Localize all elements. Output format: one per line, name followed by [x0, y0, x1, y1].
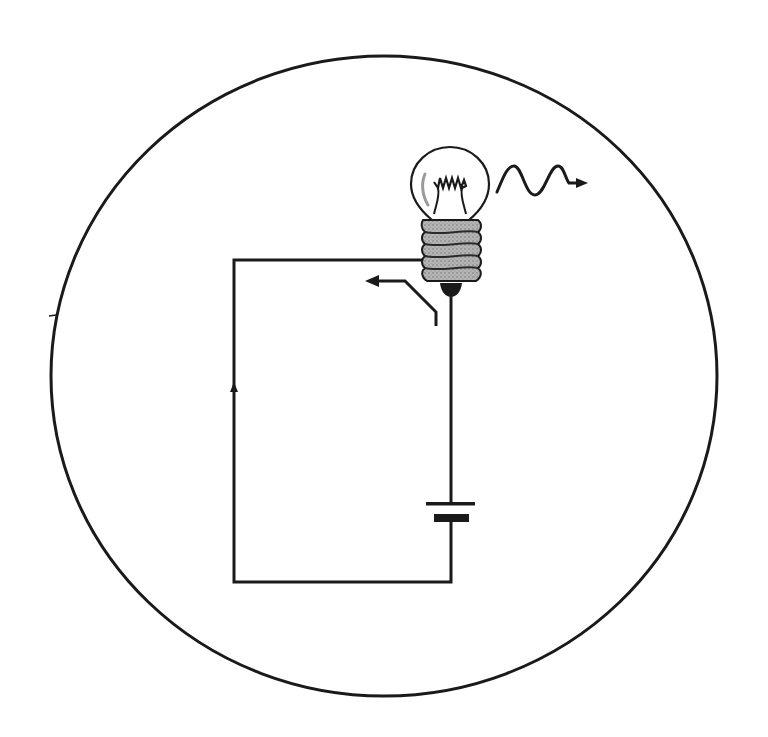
battery-icon — [426, 502, 475, 522]
switch-arm — [377, 281, 436, 326]
current-arrow-icon — [230, 382, 238, 392]
light-wave — [497, 166, 580, 195]
boundary-circle — [51, 56, 717, 696]
light-wave-arrowhead — [576, 178, 588, 188]
light-wave-icon — [497, 166, 588, 195]
circuit-diagram — [0, 0, 768, 737]
bulb-contact — [440, 283, 462, 297]
circuit-wires — [234, 260, 451, 582]
switch-icon[interactable] — [365, 275, 436, 326]
wire-top — [234, 260, 451, 582]
light-bulb-icon[interactable] — [411, 147, 489, 297]
bulb-base — [422, 220, 481, 281]
battery-negative-plate — [434, 514, 469, 522]
boundary-tick — [49, 315, 56, 316]
battery-positive-plate — [426, 502, 475, 506]
switch-arrowhead — [365, 275, 379, 287]
